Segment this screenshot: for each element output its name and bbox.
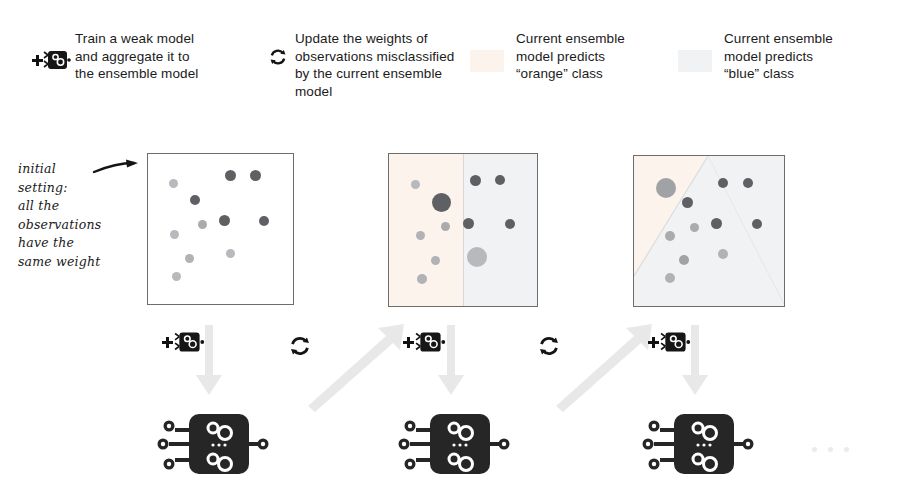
blue-swatch bbox=[678, 50, 712, 72]
data-point bbox=[711, 218, 722, 229]
plus-icon bbox=[648, 337, 659, 348]
legend-item-train-weak-model: Train a weak model and aggregate it to t… bbox=[32, 30, 247, 83]
legend-label-predicts-blue: Current ensemble model predicts “blue” c… bbox=[724, 30, 874, 83]
data-point bbox=[682, 197, 693, 208]
data-point bbox=[752, 219, 762, 229]
legend-label-update-weights: Update the weights of observations miscl… bbox=[295, 30, 475, 100]
diagonal-arrow-1 bbox=[300, 322, 410, 412]
data-point bbox=[431, 256, 440, 265]
plus-chip-icon bbox=[32, 49, 73, 71]
data-point bbox=[169, 179, 178, 188]
legend-label-predicts-orange: Current ensemble model predicts “orange”… bbox=[516, 30, 665, 83]
data-point bbox=[495, 175, 505, 185]
ellipsis-dot bbox=[828, 447, 833, 452]
data-point bbox=[417, 274, 427, 284]
hand-drawn-arrow-icon bbox=[92, 158, 142, 180]
data-point bbox=[219, 215, 230, 226]
legend-label-train-weak-model: Train a weak model and aggregate it to t… bbox=[75, 30, 235, 83]
data-point bbox=[665, 273, 675, 283]
ensemble-model-chip-2 bbox=[396, 402, 514, 498]
plus-icon bbox=[162, 337, 173, 348]
data-point bbox=[185, 254, 194, 263]
scatter-plot-iteration-1 bbox=[388, 153, 538, 307]
data-point bbox=[441, 222, 450, 231]
data-point bbox=[470, 175, 481, 186]
orange-swatch bbox=[470, 50, 504, 72]
plus-icon bbox=[32, 55, 43, 66]
scatter-plot-initial bbox=[147, 153, 294, 305]
data-point bbox=[411, 180, 420, 189]
ellipsis-dot bbox=[812, 447, 817, 452]
data-point bbox=[505, 219, 515, 229]
decision-regions-diagonal bbox=[634, 156, 785, 307]
data-point bbox=[172, 272, 181, 281]
refresh-arrows-icon bbox=[268, 47, 288, 67]
legend-item-predicts-orange: Current ensemble model predicts “orange”… bbox=[470, 30, 665, 83]
ellipsis-dot bbox=[844, 447, 849, 452]
data-point bbox=[190, 195, 200, 205]
data-point bbox=[665, 231, 675, 241]
down-arrow-step-3 bbox=[678, 325, 712, 397]
data-point bbox=[416, 231, 425, 240]
data-point bbox=[226, 249, 235, 258]
plus-icon bbox=[403, 337, 414, 348]
orange-decision-region bbox=[389, 154, 463, 306]
legend-item-update-weights: Update the weights of observations miscl… bbox=[268, 30, 483, 100]
orange-class-swatch bbox=[470, 50, 504, 72]
data-point bbox=[718, 178, 728, 188]
data-point bbox=[250, 170, 261, 181]
blue-class-swatch bbox=[678, 50, 712, 72]
data-point bbox=[718, 249, 728, 259]
data-point bbox=[225, 170, 236, 181]
legend-item-predicts-blue: Current ensemble model predicts “blue” c… bbox=[678, 30, 878, 83]
data-point bbox=[656, 178, 676, 198]
data-point bbox=[690, 223, 699, 232]
data-point bbox=[170, 230, 179, 239]
cycle-icon bbox=[268, 47, 288, 67]
down-arrow-step-2 bbox=[434, 325, 468, 397]
ensemble-model-chip-1 bbox=[155, 402, 273, 498]
data-point bbox=[463, 218, 474, 229]
down-arrow-step-1 bbox=[192, 325, 226, 397]
data-point bbox=[259, 216, 269, 226]
diagonal-arrow-2 bbox=[548, 322, 658, 412]
weak-model-chip-icon bbox=[43, 49, 73, 71]
data-point bbox=[432, 193, 451, 212]
ensemble-model-chip-3 bbox=[640, 402, 758, 498]
data-point bbox=[198, 220, 207, 229]
data-point bbox=[467, 247, 487, 267]
continuation-ellipsis bbox=[812, 447, 849, 452]
scatter-plot-iteration-2 bbox=[633, 155, 785, 307]
decision-boundary bbox=[463, 154, 464, 306]
data-point bbox=[679, 255, 689, 265]
diagram-canvas: Train a weak model and aggregate it to t… bbox=[0, 0, 902, 501]
data-point bbox=[743, 178, 753, 188]
